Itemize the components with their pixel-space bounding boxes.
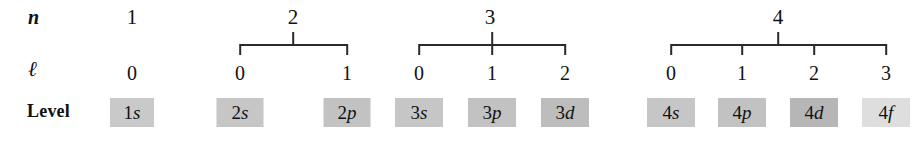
level-box: 4p [718,98,766,127]
bracket-tick [813,44,815,55]
n-value: 1 [127,5,138,30]
level-shell-number: 3 [556,102,566,123]
n-value: 3 [485,5,496,30]
l-value: 0 [127,62,137,85]
bracket-tick [564,44,566,55]
n-value: 4 [773,5,784,30]
level-box: 3s [395,98,443,127]
level-orbital-letter: p [492,102,502,123]
level-orbital-letter: d [565,102,575,123]
l-value: 0 [666,62,676,85]
level-box: 4s [647,98,695,127]
n-value: 2 [288,5,299,30]
bracket-center-stub [777,32,779,45]
l-value: 2 [560,62,570,85]
level-shell-number: 4 [879,102,889,123]
row-label-level: Level [27,101,70,122]
row-label-orbital-quantum-number: ℓ [28,57,37,82]
l-value: 2 [809,62,819,85]
bracket [419,36,565,58]
level-box: 3d [541,98,589,127]
bracket-tick [346,44,348,55]
bracket-tick [239,44,241,55]
bracket-tick [741,44,743,55]
bracket-tick [885,44,887,55]
level-orbital-letter: s [241,102,248,123]
level-box: 4f [862,98,910,127]
bracket [240,36,347,58]
l-value: 1 [737,62,747,85]
level-box: 2s [217,98,264,127]
bracket-tick [491,32,493,55]
level-orbital-letter: s [420,102,427,123]
l-value: 3 [881,62,891,85]
l-value: 1 [342,62,352,85]
level-orbital-letter: p [742,102,752,123]
level-orbital-letter: d [814,102,824,123]
level-orbital-letter: s [672,102,679,123]
level-orbital-letter: f [888,102,893,123]
level-box: 3p [468,98,516,127]
l-value: 0 [414,62,424,85]
bracket-tick [418,44,420,55]
level-shell-number: 2 [338,102,348,123]
level-shell-number: 2 [232,102,242,123]
level-shell-number: 4 [733,102,743,123]
bracket [671,36,886,58]
level-box: 2p [324,98,371,127]
level-shell-number: 4 [805,102,815,123]
level-orbital-letter: s [133,102,140,123]
level-shell-number: 4 [663,102,673,123]
level-shell-number: 3 [483,102,493,123]
level-orbital-letter: p [347,102,357,123]
l-value: 0 [235,62,245,85]
level-shell-number: 1 [124,102,134,123]
row-label-principal-quantum-number: n [28,6,39,29]
bracket-tick [670,44,672,55]
level-box: 4d [790,98,838,127]
level-shell-number: 3 [411,102,421,123]
quantum-number-level-diagram: n ℓ Level 101s202s12p303s13p23d404s14p24… [0,0,923,143]
l-value: 1 [487,62,497,85]
level-box: 1s [110,98,154,127]
bracket-center-stub [292,32,294,45]
